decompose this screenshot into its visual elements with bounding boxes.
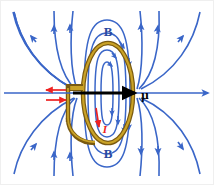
- field-arrow-ur-2: [157, 26, 158, 34]
- magnetic-field-diagram-svg: B B μ I: [0, 0, 214, 185]
- label-b-bottom: B: [104, 146, 113, 161]
- label-b-top: B: [104, 24, 113, 39]
- physics-diagram-figure: B B μ I: [0, 0, 214, 185]
- label-current: I: [102, 123, 108, 135]
- label-mu: μ: [141, 87, 149, 102]
